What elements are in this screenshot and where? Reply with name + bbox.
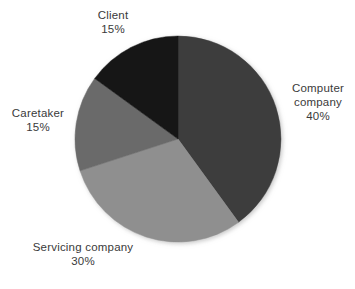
pie-label-servicing-company: Servicing company 30% bbox=[24, 240, 142, 268]
pie-label-client-name: Client bbox=[78, 8, 148, 22]
pie-label-client-value: 15% bbox=[78, 22, 148, 36]
pie-label-servicing-company-value: 30% bbox=[24, 254, 142, 268]
pie-label-caretaker: Caretaker 15% bbox=[2, 106, 74, 134]
pie-chart: Client 15% Computer company 40% Caretake… bbox=[0, 0, 355, 289]
pie-label-caretaker-name: Caretaker bbox=[2, 106, 74, 120]
pie-label-computer-company-value: 40% bbox=[282, 109, 354, 123]
pie-slice-group bbox=[75, 36, 281, 242]
pie-label-caretaker-value: 15% bbox=[2, 120, 74, 134]
pie-label-client: Client 15% bbox=[78, 8, 148, 36]
pie-label-servicing-company-name: Servicing company bbox=[24, 240, 142, 254]
pie-label-computer-company-name-line1: Computer bbox=[282, 81, 354, 95]
pie-label-computer-company: Computer company 40% bbox=[282, 81, 354, 123]
pie-label-computer-company-name-line2: company bbox=[282, 95, 354, 109]
